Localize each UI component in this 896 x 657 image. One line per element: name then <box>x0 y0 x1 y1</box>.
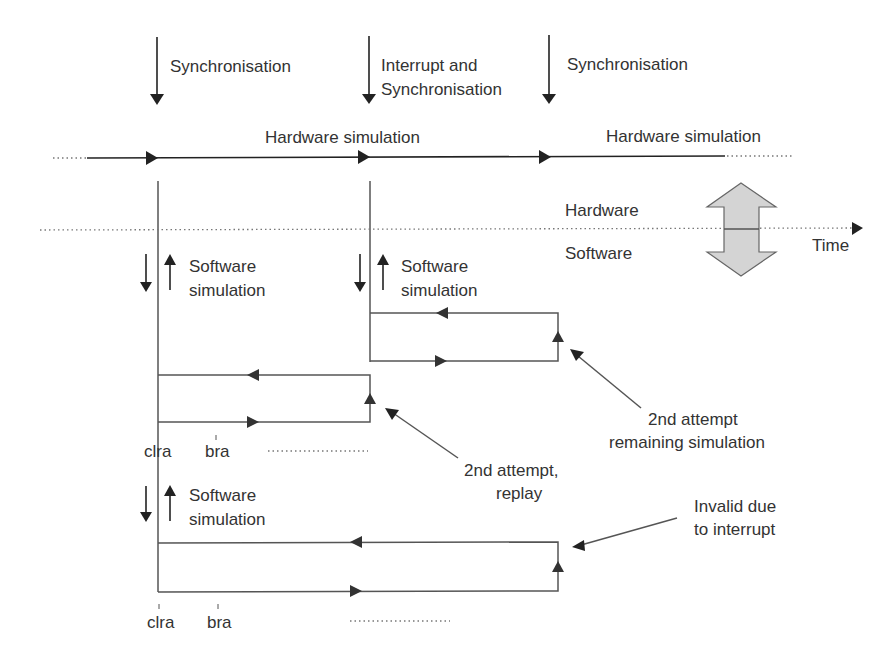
instruction-markers-row-2: clra bra <box>147 604 450 632</box>
hardware-sim-label-1: Hardware simulation <box>265 128 420 147</box>
software-label: Software <box>565 244 632 263</box>
software-sim-label-2a: Software <box>401 257 468 276</box>
left-arrow-icon <box>247 369 259 381</box>
instr-bra-1: bra <box>205 442 230 461</box>
interrupt-sync-label-line2: Synchronisation <box>381 80 502 99</box>
software-sim-label-1a: Software <box>189 257 256 276</box>
loop-remaining-simulation <box>370 307 564 367</box>
interrupt-sync-label-line1: Interrupt and <box>381 56 477 75</box>
right-arrow-icon <box>539 150 551 164</box>
software-sim-label-2b: simulation <box>401 281 478 300</box>
left-arrow-icon <box>350 536 362 548</box>
left-arrow-icon <box>436 307 448 319</box>
hardware-sim-label-2: Hardware simulation <box>606 127 761 146</box>
annotation-remaining-line2: remaining simulation <box>609 433 765 452</box>
annotation-remaining-line1: 2nd attempt <box>648 410 738 429</box>
timing-diagram: Synchronisation Interrupt and Synchronis… <box>0 0 896 657</box>
annotation-replay: 2nd attempt, replay <box>385 408 559 503</box>
sync-event-3: Synchronisation <box>542 35 688 104</box>
sync-label-1: Synchronisation <box>170 57 291 76</box>
hardware-label: Hardware <box>565 201 639 220</box>
instruction-markers-row-1: clra bra <box>144 435 368 461</box>
software-sim-block-1: Software simulation <box>140 254 266 300</box>
time-arrow-icon <box>852 222 863 235</box>
loop-replay <box>158 369 376 428</box>
annotation-invalid-line2: to interrupt <box>694 520 776 539</box>
software-sim-block-2: Software simulation <box>354 254 478 300</box>
sync-event-1: Synchronisation <box>150 37 291 105</box>
instr-clra-1: clra <box>144 442 172 461</box>
software-sim-label-3a: Software <box>189 486 256 505</box>
instr-clra-2: clra <box>147 613 175 632</box>
right-arrow-icon <box>146 151 158 165</box>
annotation-invalid-line1: Invalid due <box>694 497 776 516</box>
loop-invalid <box>158 536 564 597</box>
annotation-remaining-simulation: 2nd attempt remaining simulation <box>570 349 765 452</box>
software-sim-block-3: Software simulation <box>140 485 266 529</box>
time-axis-label: Time <box>812 236 849 255</box>
hardware-timeline: Hardware simulation Hardware simulation <box>53 127 792 165</box>
up-arrow-icon <box>364 393 376 404</box>
software-sim-label-1b: simulation <box>189 281 266 300</box>
right-arrow-icon <box>247 416 259 428</box>
up-arrow-icon <box>552 331 564 342</box>
pointer-arrow-icon <box>572 540 585 551</box>
sync-event-2: Interrupt and Synchronisation <box>362 36 502 104</box>
up-arrow-icon <box>552 561 564 572</box>
annotation-replay-line1: 2nd attempt, <box>464 461 559 480</box>
right-arrow-icon <box>435 355 447 367</box>
pointer-arrow-icon <box>385 408 399 420</box>
right-arrow-icon <box>350 585 362 597</box>
double-arrow-icon <box>707 183 776 276</box>
annotation-replay-line2: replay <box>496 484 543 503</box>
software-sim-label-3b: simulation <box>189 510 266 529</box>
instr-bra-2: bra <box>207 613 232 632</box>
right-arrow-icon <box>358 150 370 164</box>
sync-label-3: Synchronisation <box>567 55 688 74</box>
annotation-invalid: Invalid due to interrupt <box>572 497 776 551</box>
